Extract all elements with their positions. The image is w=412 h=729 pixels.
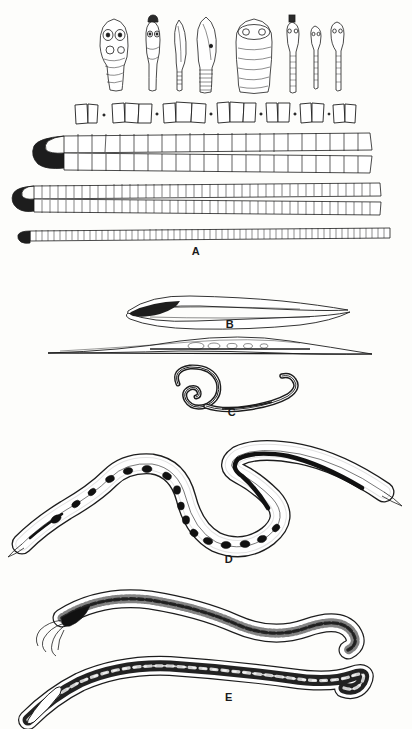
- proglottid-group-3: [163, 102, 206, 123]
- flatworm-lower: [48, 337, 372, 354]
- panel-label-a: A: [186, 245, 206, 257]
- scolex-5: [236, 19, 272, 94]
- panel-e: E: [0, 580, 412, 725]
- panel-e-nematodes: [0, 580, 412, 725]
- scolex-7: [311, 26, 321, 89]
- scolex-2: [146, 15, 160, 91]
- scolex-6: [287, 15, 299, 93]
- proglottid-group-4: [217, 102, 256, 123]
- panel-c-nematode: [0, 362, 412, 422]
- panel-b-worms: [0, 285, 412, 365]
- proglottid-group-6: [300, 103, 324, 123]
- panel-label-b: B: [220, 318, 240, 330]
- panel-a: A: [0, 0, 412, 250]
- panel-d-nematode: [0, 440, 412, 565]
- scolex-8: [331, 22, 344, 91]
- nematode-upper: [62, 599, 355, 650]
- proglottid-group-5: [266, 103, 290, 122]
- proglottid-group-2: [112, 103, 152, 123]
- scolex-3: [175, 20, 187, 91]
- proglottid-row: [0, 98, 412, 132]
- panel-d: D: [0, 440, 412, 565]
- strobila-chain-medium: [12, 183, 381, 215]
- proglottid-group-1: [75, 104, 98, 124]
- scolex-4: [197, 17, 216, 93]
- panel-label-c: C: [222, 406, 242, 418]
- illustration-plate: A: [0, 0, 412, 729]
- nematode-lower: [28, 666, 364, 720]
- proglottid-group-7: [333, 104, 356, 123]
- panel-label-d: D: [219, 553, 239, 565]
- panel-label-e: E: [219, 691, 239, 703]
- coiled-nematode: [177, 367, 297, 410]
- panel-b: B: [0, 285, 412, 365]
- strobila-chain-large: [33, 133, 372, 173]
- strobila-rows: [0, 128, 412, 248]
- panel-c: C: [0, 362, 412, 422]
- scolex-1: [100, 19, 128, 91]
- scolex-row: [0, 6, 412, 102]
- strobila-chain-fine: [18, 228, 390, 243]
